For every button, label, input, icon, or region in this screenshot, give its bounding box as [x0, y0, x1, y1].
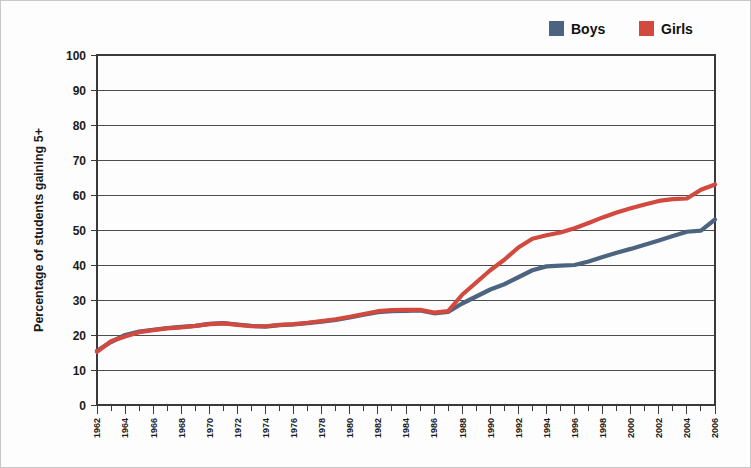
x-tick-label: 1990 [486, 418, 496, 438]
x-axis-tick-labels: 1962196419661968197019721974197619781980… [92, 418, 720, 438]
x-tick-label: 1996 [570, 418, 580, 438]
x-tick-label: 1992 [514, 418, 524, 438]
line-chart: 0102030405060708090100 19621964196619681… [1, 1, 751, 468]
x-tick-label: 1962 [92, 418, 102, 438]
legend-swatch-girls [639, 21, 654, 36]
y-tick-label: 60 [73, 189, 87, 203]
x-tick-label: 1970 [205, 418, 215, 438]
x-tick-label: 1968 [177, 418, 187, 438]
x-tick-label: 1978 [317, 418, 327, 438]
y-tick-label: 30 [73, 294, 87, 308]
x-tick-label: 1964 [120, 418, 130, 438]
x-tick-label: 1994 [542, 418, 552, 438]
y-tick-label: 0 [79, 399, 86, 413]
legend-label-girls: Girls [661, 21, 693, 37]
y-tick-label: 90 [73, 84, 87, 98]
series-line-boys [97, 220, 715, 351]
legend-swatch-boys [549, 21, 564, 36]
x-tick-label: 2000 [626, 418, 636, 438]
x-tick-label: 1998 [598, 418, 608, 438]
x-tick-label: 2002 [654, 418, 664, 438]
data-series [97, 185, 715, 352]
x-tick-label: 1986 [429, 418, 439, 438]
x-tick-label: 1988 [458, 418, 468, 438]
y-tick-label: 40 [73, 259, 87, 273]
x-tick-label: 1966 [149, 418, 159, 438]
chart-legend: BoysGirls [549, 21, 693, 37]
x-tick-label: 1972 [233, 418, 243, 438]
chart-figure: 0102030405060708090100 19621964196619681… [0, 0, 751, 468]
series-line-girls [97, 185, 715, 352]
x-tick-label: 2006 [710, 418, 720, 438]
x-tick-label: 1976 [289, 418, 299, 438]
x-axis-ticks [97, 405, 715, 414]
y-tick-label: 50 [73, 224, 87, 238]
legend-label-boys: Boys [571, 21, 605, 37]
y-tick-label: 80 [73, 119, 87, 133]
y-axis-title: Percentage of students gaining 5+ [32, 128, 46, 332]
y-tick-label: 100 [66, 49, 86, 63]
y-tick-label: 70 [73, 154, 87, 168]
x-tick-label: 2004 [682, 418, 692, 438]
y-tick-label: 10 [73, 364, 87, 378]
y-axis-tick-labels: 0102030405060708090100 [66, 49, 86, 413]
y-tick-label: 20 [73, 329, 87, 343]
gridlines [91, 55, 715, 405]
x-tick-label: 1984 [401, 418, 411, 438]
x-tick-label: 1982 [373, 418, 383, 438]
x-tick-label: 1980 [345, 418, 355, 438]
x-tick-label: 1974 [261, 418, 271, 438]
